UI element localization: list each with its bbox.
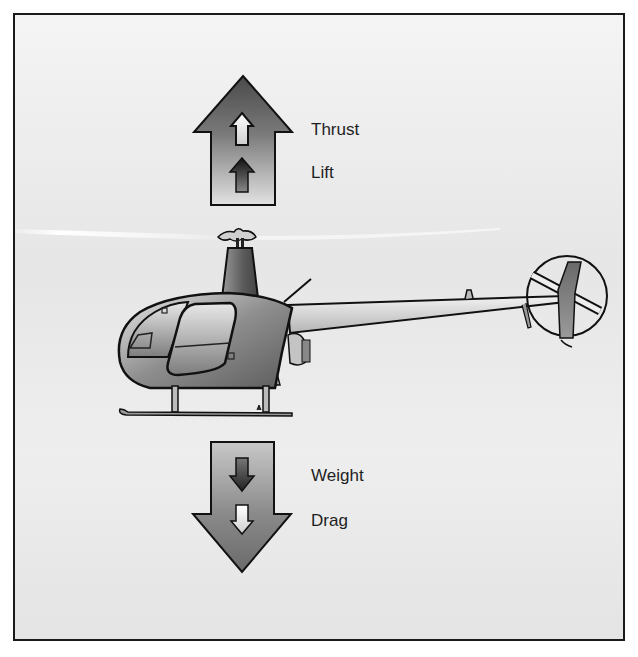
main-rotor-blade [15,228,500,240]
tail-boom [288,290,565,333]
helicopter-forces-diagram [0,0,638,657]
weight-label: Weight [311,466,364,486]
up-force-arrow-icon [194,76,292,205]
drag-label: Drag [311,511,348,531]
lift-label: Lift [311,163,334,183]
mast-pylon [222,248,258,298]
landing-skids [120,386,292,416]
down-force-arrow-icon [193,442,291,572]
thrust-label: Thrust [311,120,359,140]
fuselage [119,293,292,388]
antenna [284,279,311,302]
rotor-head [218,229,256,248]
